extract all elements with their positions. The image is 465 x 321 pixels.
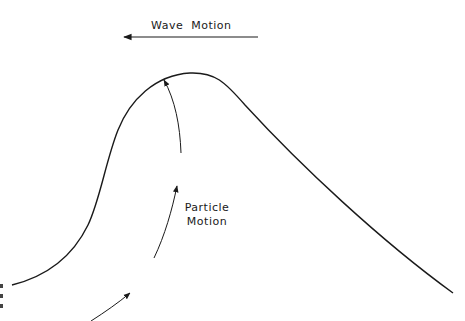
wave-motion-label: Wave Motion <box>151 19 231 33</box>
margin-mark <box>0 304 3 308</box>
particle-motion-label: Particle Motion <box>183 201 231 229</box>
particle-arrow-lower <box>91 293 130 321</box>
particle-arrow-upper <box>164 80 181 153</box>
wave-diagram <box>0 0 465 321</box>
particle-label-line2: Motion <box>183 215 231 229</box>
margin-mark <box>0 284 3 288</box>
particle-arrow-middle <box>154 186 177 258</box>
particle-label-line1: Particle <box>183 201 231 215</box>
margin-mark <box>0 294 3 298</box>
wave-profile-curve <box>12 73 453 293</box>
